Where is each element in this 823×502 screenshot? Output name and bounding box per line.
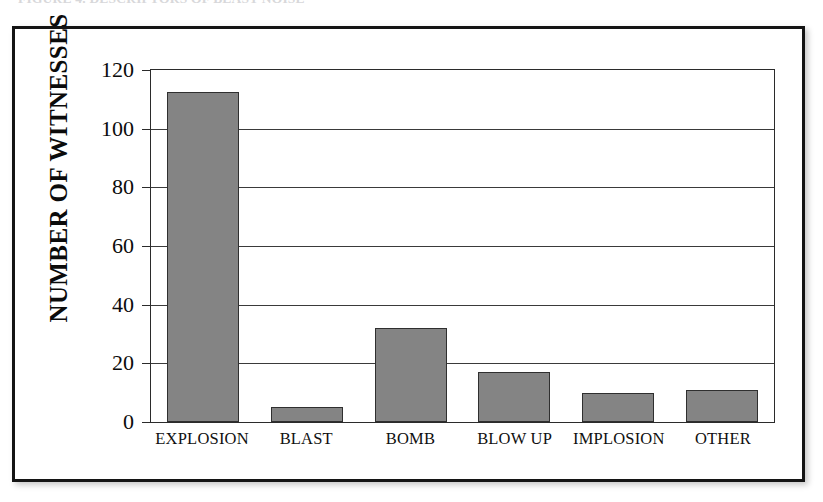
y-axis-tick	[142, 422, 151, 423]
x-axis-label-blow-up: BLOW UP	[463, 429, 567, 449]
x-axis-labels: EXPLOSIONBLASTBOMBBLOW UPIMPLOSIONOTHER	[150, 429, 775, 449]
x-axis-label-other: OTHER	[671, 429, 775, 449]
bar-explosion	[167, 92, 239, 422]
y-axis-tick-label: 100	[101, 116, 134, 142]
y-axis-tick	[142, 70, 151, 71]
bar-implosion	[582, 393, 654, 423]
cut-off-figure-title: FIGURE 4. DESCRIPTORS OF BLAST NOISE	[18, 0, 438, 5]
y-axis-tick-label: 120	[101, 57, 134, 83]
figure-frame: NUMBER OF WITNESSES 020406080100120 EXPL…	[12, 26, 805, 482]
y-axis-tick	[142, 363, 151, 364]
bar-slot	[359, 70, 463, 422]
bar-slot	[670, 70, 774, 422]
bar-other	[686, 390, 758, 422]
bar-blast	[271, 407, 343, 422]
y-axis-tick	[142, 246, 151, 247]
bar-blow-up	[478, 372, 550, 422]
y-axis-tick-label: 60	[112, 233, 134, 259]
y-axis-tick	[142, 129, 151, 130]
x-axis-label-explosion: EXPLOSION	[150, 429, 254, 449]
y-axis-tick-label: 40	[112, 292, 134, 318]
bars-layer	[151, 70, 774, 422]
bar-bomb	[375, 328, 447, 422]
y-axis-title: NUMBER OF WITNESSES	[45, 3, 73, 333]
bar-slot	[566, 70, 670, 422]
y-axis-tick-label: 0	[123, 409, 134, 435]
y-axis-tick-label: 80	[112, 174, 134, 200]
bar-slot	[462, 70, 566, 422]
x-axis-label-blast: BLAST	[254, 429, 358, 449]
bar-slot	[255, 70, 359, 422]
x-axis-label-bomb: BOMB	[358, 429, 462, 449]
bar-slot	[151, 70, 255, 422]
y-axis-tick	[142, 187, 151, 188]
y-axis-tick-label: 20	[112, 350, 134, 376]
x-axis-label-implosion: IMPLOSION	[567, 429, 671, 449]
y-axis-tick	[142, 305, 151, 306]
plot-area: 020406080100120	[150, 69, 775, 423]
